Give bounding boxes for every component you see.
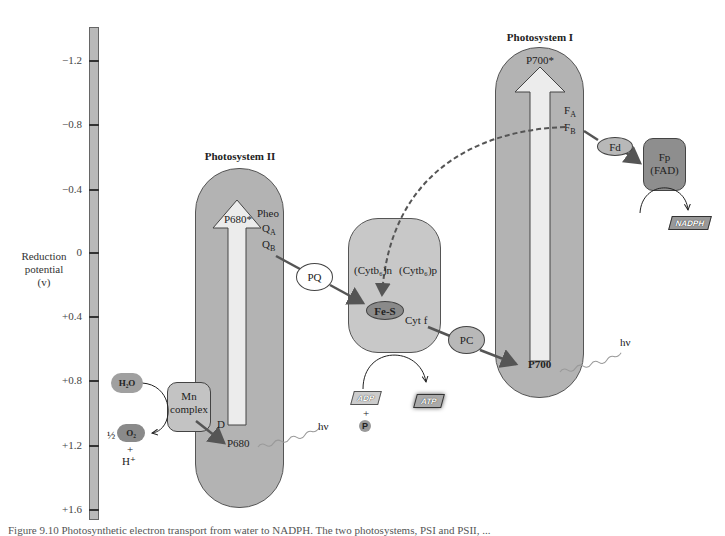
adp-label: ADP (350, 391, 382, 405)
o2-molecule: O₂ (117, 424, 145, 442)
fd-node: Fd (597, 137, 633, 156)
plus-sign: + (127, 443, 133, 455)
hv-psii-label: hν (318, 420, 328, 432)
pc-node: PC (448, 326, 485, 354)
fb-label: FB (564, 121, 575, 136)
qa-text: Q (262, 222, 270, 234)
half-label: ½ (107, 429, 115, 441)
h2o-molecule: H₂O (111, 373, 143, 393)
qb-sub: B (270, 244, 275, 253)
qb-text: Q (262, 238, 270, 250)
qb-label: QB (262, 238, 275, 253)
fa-sub: A (570, 110, 576, 119)
p700-star-label: P700* (526, 54, 554, 66)
phosphate-label: P (359, 420, 371, 432)
cyt-f-label: Cyt f (405, 314, 427, 326)
plus-sign: + (363, 407, 369, 419)
figure-caption: Figure 9.10 Photosynthetic electron tran… (8, 524, 491, 536)
fe-s-node: Fe-S (366, 301, 404, 320)
fb-sub: B (570, 127, 575, 136)
cytb6n-label: (Cytb₆)n (354, 264, 392, 276)
pq-node: PQ (296, 263, 333, 291)
p680-star-label: P680* (224, 213, 252, 225)
pheo-label: Pheo (257, 207, 279, 219)
qa-sub: A (270, 228, 276, 237)
fa-label: FA (564, 104, 576, 119)
atp-label: ATP (413, 394, 445, 408)
cytb6p-label: (Cytb₆)p (399, 264, 437, 276)
qa-label: QA (262, 222, 276, 237)
hv-psi-label: hν (620, 336, 630, 348)
h-plus-label: H⁺ (122, 455, 136, 468)
d-label: D (217, 418, 225, 430)
p700-label: P700 (528, 358, 551, 370)
p680-label: P680 (227, 437, 250, 449)
nadph-label: NADPH (668, 216, 712, 230)
